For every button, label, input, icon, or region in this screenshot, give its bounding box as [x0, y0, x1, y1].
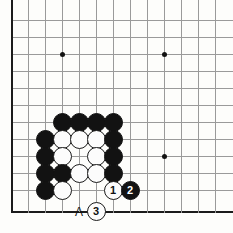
label-layer: A — [0, 0, 233, 233]
go-board-diagram: 123 A — [0, 0, 233, 233]
board-point-label-a: A — [75, 206, 83, 218]
